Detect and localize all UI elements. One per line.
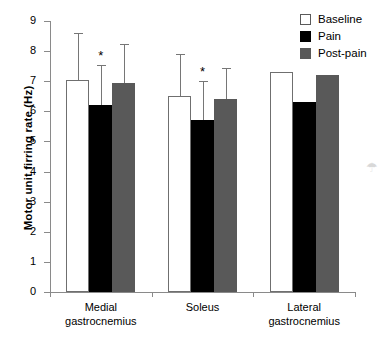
legend-label: Pain: [318, 30, 341, 42]
legend-swatch-postpain: [300, 48, 311, 59]
y-tick-label: 0: [2, 286, 36, 297]
category-label-line: Lateral: [234, 301, 374, 315]
legend-swatch-baseline: [300, 14, 311, 25]
legend-item: Baseline: [300, 13, 367, 25]
y-tick: [44, 21, 50, 22]
y-tick-label: 2: [2, 226, 36, 237]
error-bar-cap: [97, 65, 106, 66]
y-axis-line: [50, 21, 51, 292]
y-tick: [44, 262, 50, 263]
y-tick-label: 3: [2, 196, 36, 207]
x-tick: [253, 292, 254, 297]
error-bar-cap: [120, 44, 129, 45]
y-tick-label: 8: [2, 45, 36, 56]
y-tick: [44, 81, 50, 82]
category-label: Lateralgastrocnemius: [234, 301, 374, 328]
y-tick: [44, 172, 50, 173]
legend: BaselinePainPost-pain: [300, 13, 367, 64]
category-label-line: gastrocnemius: [234, 315, 374, 329]
y-tick-label: 9: [2, 15, 36, 26]
y-tick-label: 4: [2, 166, 36, 177]
legend-swatch-pain: [300, 31, 311, 42]
error-bar-line: [101, 65, 102, 106]
bar-baseline: [270, 72, 293, 292]
error-bar-cap: [199, 81, 208, 82]
bar-chart: Motor unit firring rate (Hz) 0123456789 …: [0, 0, 389, 339]
significance-star: *: [195, 65, 211, 78]
bar-pain: [89, 105, 112, 292]
error-bar-cap: [176, 54, 185, 55]
error-bar-line: [78, 33, 79, 80]
legend-label: Baseline: [318, 13, 362, 25]
y-tick-label: 5: [2, 135, 36, 146]
legend-label: Post-pain: [318, 47, 367, 59]
error-bar-cap: [74, 33, 83, 34]
y-tick-label: 1: [2, 256, 36, 267]
error-bar-line: [226, 68, 227, 100]
bar-postpain: [112, 83, 135, 292]
bar-baseline: [168, 96, 191, 292]
bar-pain: [293, 102, 316, 292]
x-tick: [152, 292, 153, 297]
bar-baseline: [66, 80, 89, 292]
y-tick: [44, 111, 50, 112]
scan-artifact-icon: ☂: [366, 160, 380, 178]
x-tick: [50, 292, 51, 297]
y-tick-label: 7: [2, 75, 36, 86]
x-axis-line: [50, 292, 355, 293]
y-tick: [44, 232, 50, 233]
significance-star: *: [93, 49, 109, 62]
legend-item: Post-pain: [300, 47, 367, 59]
error-bar-line: [124, 44, 125, 83]
x-tick: [355, 292, 356, 297]
legend-item: Pain: [300, 30, 367, 42]
error-bar-cap: [222, 68, 231, 69]
y-tick: [44, 51, 50, 52]
error-bar-line: [180, 54, 181, 96]
bar-postpain: [316, 75, 339, 292]
category-label-line: gastrocnemius: [31, 315, 171, 329]
bar-pain: [191, 120, 214, 292]
y-tick-label: 6: [2, 105, 36, 116]
y-tick: [44, 141, 50, 142]
bar-postpain: [214, 99, 237, 292]
y-tick: [44, 202, 50, 203]
error-bar-line: [203, 81, 204, 120]
